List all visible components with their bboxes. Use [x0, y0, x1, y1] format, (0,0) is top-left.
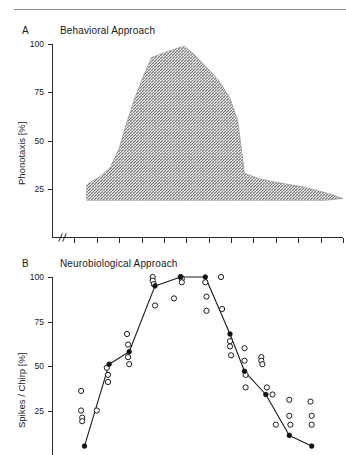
- spikes-per-chirp-plot: [0, 250, 346, 455]
- y-tick-label: 75: [18, 87, 44, 97]
- mean-data-point: [178, 275, 183, 280]
- y-tick-label: 25: [18, 184, 44, 194]
- individual-data-point: [220, 306, 225, 311]
- mean-data-point: [287, 433, 292, 438]
- mean-data-point: [153, 284, 158, 289]
- panel-neurobiological-approach: B Neurobiological Approach Spikes / Chir…: [0, 250, 346, 455]
- individual-data-point: [126, 342, 131, 347]
- individual-data-point: [242, 346, 247, 351]
- individual-data-point: [309, 422, 314, 427]
- phonotaxis-envelope-svg: [52, 44, 344, 238]
- individual-data-point: [264, 385, 269, 390]
- individual-data-point: [287, 413, 292, 418]
- x-tick-mark: [74, 238, 75, 243]
- individual-data-point: [273, 422, 278, 427]
- individual-data-point: [227, 339, 232, 344]
- x-tick-mark: [231, 238, 232, 243]
- individual-data-point: [204, 308, 209, 313]
- x-tick-mark: [142, 238, 143, 243]
- individual-data-point: [288, 422, 293, 427]
- individual-data-point: [124, 331, 129, 336]
- x-tick-mark: [209, 238, 210, 243]
- x-tick-mark: [97, 238, 98, 243]
- individual-data-point: [127, 362, 132, 367]
- individual-data-point: [229, 353, 234, 358]
- mean-data-point: [264, 392, 269, 397]
- individual-data-point: [227, 344, 232, 349]
- x-tick-mark: [119, 238, 120, 243]
- panel-a-y-axis-label: Phonotaxis [%]: [16, 122, 27, 185]
- mean-response-line: [85, 277, 312, 446]
- individual-data-point: [309, 413, 314, 418]
- mean-data-point: [203, 275, 208, 280]
- individual-data-point: [94, 408, 99, 413]
- individual-data-point: [126, 355, 131, 360]
- individual-data-point: [203, 280, 208, 285]
- mean-data-point: [309, 444, 314, 449]
- individual-data-point: [171, 296, 176, 301]
- individual-data-point: [79, 388, 84, 393]
- individual-data-point: [152, 303, 157, 308]
- panel-a-letter: A: [22, 25, 29, 36]
- phonotaxis-envelope: [52, 44, 344, 238]
- individual-data-point: [204, 294, 209, 299]
- mean-data-point: [127, 350, 132, 355]
- individual-data-point: [105, 372, 110, 377]
- x-tick-mark: [276, 238, 277, 243]
- mean-data-point: [228, 332, 233, 337]
- figure-root: A Behavioral Approach Phonotaxis [%] 100…: [0, 0, 346, 455]
- mean-data-point: [107, 362, 112, 367]
- x-tick-mark: [298, 238, 299, 243]
- mean-data-point: [242, 369, 247, 374]
- individual-data-point: [242, 358, 247, 363]
- x-tick-mark: [253, 238, 254, 243]
- y-tick-label: 100: [18, 39, 44, 49]
- panel-a-title: Behavioral Approach: [60, 25, 155, 36]
- individual-data-point: [287, 397, 292, 402]
- x-tick-mark: [186, 238, 187, 243]
- x-tick-mark: [164, 238, 165, 243]
- individual-data-point: [179, 280, 184, 285]
- individual-data-point: [80, 419, 85, 424]
- mean-data-point: [82, 444, 87, 449]
- individual-data-point: [270, 392, 275, 397]
- y-tick-label: 50: [18, 136, 44, 146]
- individual-data-point: [218, 274, 223, 279]
- individual-data-point: [79, 408, 84, 413]
- individual-data-point: [260, 362, 265, 367]
- individual-data-point: [105, 379, 110, 384]
- individual-data-point: [308, 399, 313, 404]
- panel-behavioral-approach: A Behavioral Approach Phonotaxis [%] 100…: [0, 0, 346, 250]
- x-tick-mark: [343, 238, 344, 243]
- x-tick-mark: [321, 238, 322, 243]
- individual-data-point: [243, 385, 248, 390]
